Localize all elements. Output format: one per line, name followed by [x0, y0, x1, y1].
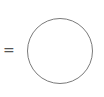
equals-sign: =: [3, 40, 13, 60]
circle-shape: [27, 18, 93, 84]
